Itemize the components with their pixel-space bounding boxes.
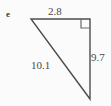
part-label: e	[6, 10, 10, 19]
right-angle-marker-icon	[81, 19, 90, 28]
triangle-diagram-screenshot: e 2.8 9.7 10.1	[0, 0, 111, 106]
side-length-label-hypotenuse: 10.1	[31, 60, 50, 71]
side-length-label-right: 9.7	[91, 52, 105, 63]
side-length-label-top: 2.8	[48, 6, 62, 17]
